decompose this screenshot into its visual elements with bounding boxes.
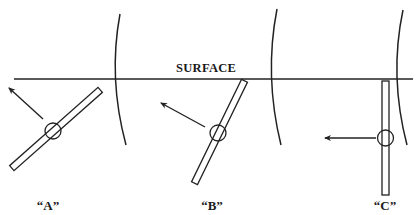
configuration-label-b: “B”: [201, 198, 223, 214]
configuration-a: [9, 87, 102, 170]
configuration-label-a: “A”: [37, 198, 59, 214]
wavefront-arc-3: [397, 10, 407, 145]
wavefront-arc-2: [271, 9, 281, 145]
force-arrow-b: [161, 103, 205, 127]
diagram-canvas: [0, 0, 418, 215]
bar-a: [10, 87, 103, 170]
surface-label: SURFACE: [176, 61, 236, 76]
force-arrow-a: [9, 88, 43, 119]
bar-c: [382, 81, 389, 195]
bar-b: [192, 79, 248, 184]
configuration-b: [161, 79, 247, 184]
configuration-c: [325, 81, 394, 195]
configuration-label-c: “C”: [374, 198, 396, 214]
pivot-circle-c: [378, 130, 394, 146]
